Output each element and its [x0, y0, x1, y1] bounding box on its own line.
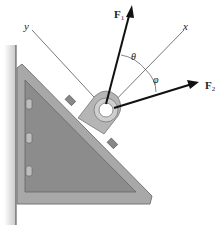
triangle-bracket [17, 64, 152, 204]
bolt-icon [26, 166, 32, 176]
nut-icon [107, 138, 118, 149]
arrowhead-icon [126, 5, 134, 18]
force-f2-arrow [114, 84, 192, 108]
bracket-force-diagram [0, 0, 223, 233]
eyelet-hole [99, 103, 113, 117]
phi-label: φ [153, 75, 159, 85]
nut-icon [65, 95, 76, 106]
angle-arcs [121, 55, 156, 92]
arrowhead-icon [187, 80, 199, 89]
y-axis-label: y [24, 21, 29, 32]
force-f2-label: F2 [205, 80, 215, 93]
force-f1-label: F1 [114, 9, 124, 22]
bolt-icon [26, 133, 32, 143]
force-f1-arrow [106, 12, 130, 104]
theta-label: θ [131, 52, 136, 62]
wall [4, 45, 16, 225]
bolt-icon [26, 99, 32, 109]
x-axis-label: x [183, 21, 188, 32]
